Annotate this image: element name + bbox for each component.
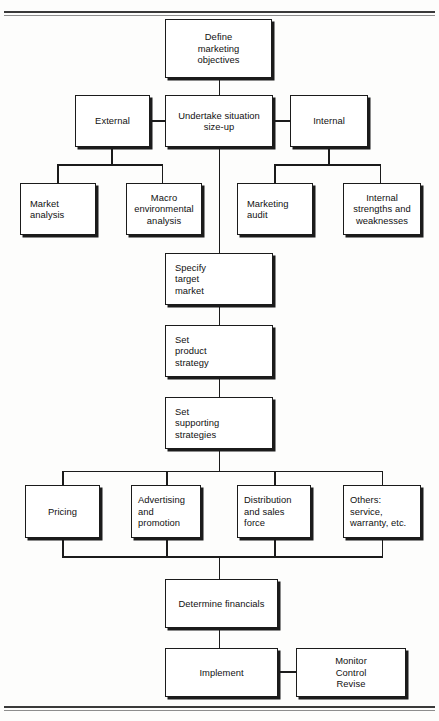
node-distribution-and-sales-force[interactable]: Distribution and sales force — [237, 485, 311, 538]
bottom-rule-secondary — [4, 710, 435, 711]
bottom-rule — [4, 706, 435, 708]
edge-external-bus — [57, 164, 163, 166]
node-marketing-audit[interactable]: Marketing audit — [237, 183, 313, 235]
edge-supporting-to-distribution — [274, 471, 276, 486]
edge-target-market-to-product-strategy — [219, 305, 221, 325]
node-label: Set supporting strategies — [166, 406, 272, 440]
node-others-service-warranty-etc[interactable]: Others: service, warranty, etc. — [343, 485, 421, 538]
edge-supporting-bus — [62, 471, 383, 473]
node-label: Macro environmental analysis — [127, 192, 201, 226]
top-rule-secondary — [4, 15, 435, 16]
top-rule — [4, 11, 435, 13]
node-undertake-situation-size-up[interactable]: Undertake situation size-up — [165, 95, 273, 147]
edge-sizeup-to-external — [150, 120, 165, 122]
node-label: Implement — [166, 667, 277, 678]
node-label: Undertake situation size-up — [166, 110, 272, 133]
edge-supporting-to-others — [382, 471, 384, 486]
edge-internal-bus — [274, 164, 381, 166]
edge-financials-to-implement — [219, 628, 221, 648]
edge-internal-to-marketing-audit — [274, 164, 276, 183]
edge-implement-to-monitor — [278, 671, 296, 673]
edge-supporting-to-pricing — [62, 471, 64, 486]
edge-internal-drop — [328, 147, 330, 165]
diagram-page: Define marketing objectives External Und… — [0, 0, 439, 721]
node-specify-target-market[interactable]: Specify target market — [165, 253, 273, 305]
node-determine-financials[interactable]: Determine financials — [165, 579, 278, 628]
node-label: Market analysis — [21, 198, 95, 221]
node-label: Advertising and promotion — [132, 494, 200, 528]
node-label: Define marketing objectives — [166, 31, 271, 65]
node-external[interactable]: External — [75, 95, 150, 147]
node-macro-environmental-analysis[interactable]: Macro environmental analysis — [126, 183, 202, 235]
node-label: Others: service, warranty, etc. — [344, 494, 420, 528]
node-label: Specify target market — [166, 262, 272, 296]
edge-internal-to-strengths — [380, 164, 382, 183]
node-monitor-control-revise[interactable]: Monitor Control Revise — [296, 648, 406, 697]
node-internal[interactable]: Internal — [290, 95, 368, 147]
node-set-product-strategy[interactable]: Set product strategy — [165, 325, 273, 377]
node-internal-strengths-and-weaknesses[interactable]: Internal strengths and weaknesses — [343, 183, 421, 235]
node-implement[interactable]: Implement — [165, 648, 278, 697]
edge-supporting-drop — [219, 449, 221, 472]
edge-merge-to-determine-financials — [219, 556, 221, 579]
edge-sizeup-to-target-market — [219, 147, 221, 254]
node-label: Monitor Control Revise — [297, 655, 405, 689]
edge-supporting-to-advertising — [166, 471, 168, 486]
node-label: Pricing — [26, 506, 99, 517]
node-label: Distribution and sales force — [238, 494, 310, 528]
node-define-marketing-objectives[interactable]: Define marketing objectives — [165, 19, 272, 78]
edge-merge-bus — [62, 556, 383, 558]
edge-product-strategy-to-supporting-strategies — [219, 377, 221, 397]
node-market-analysis[interactable]: Market analysis — [20, 183, 96, 235]
node-label: External — [76, 115, 149, 126]
node-advertising-and-promotion[interactable]: Advertising and promotion — [131, 485, 201, 538]
node-label: Internal — [291, 115, 367, 126]
edge-distribution-down — [274, 538, 276, 557]
edge-advertising-down — [166, 538, 168, 557]
node-label: Set product strategy — [166, 334, 272, 368]
edge-pricing-down — [62, 538, 64, 557]
edge-external-to-macro-analysis — [162, 164, 164, 183]
node-set-supporting-strategies[interactable]: Set supporting strategies — [165, 397, 273, 449]
node-label: Determine financials — [166, 598, 277, 609]
node-label: Marketing audit — [238, 198, 312, 221]
edge-external-to-market-analysis — [57, 164, 59, 183]
edge-others-down — [382, 538, 384, 557]
node-pricing[interactable]: Pricing — [25, 485, 100, 538]
edge-objectives-to-sizeup — [219, 78, 221, 96]
edge-external-drop — [111, 147, 113, 165]
edge-sizeup-to-internal — [273, 120, 290, 122]
page-header-ghost-text — [40, 0, 370, 9]
node-label: Internal strengths and weaknesses — [344, 192, 420, 226]
